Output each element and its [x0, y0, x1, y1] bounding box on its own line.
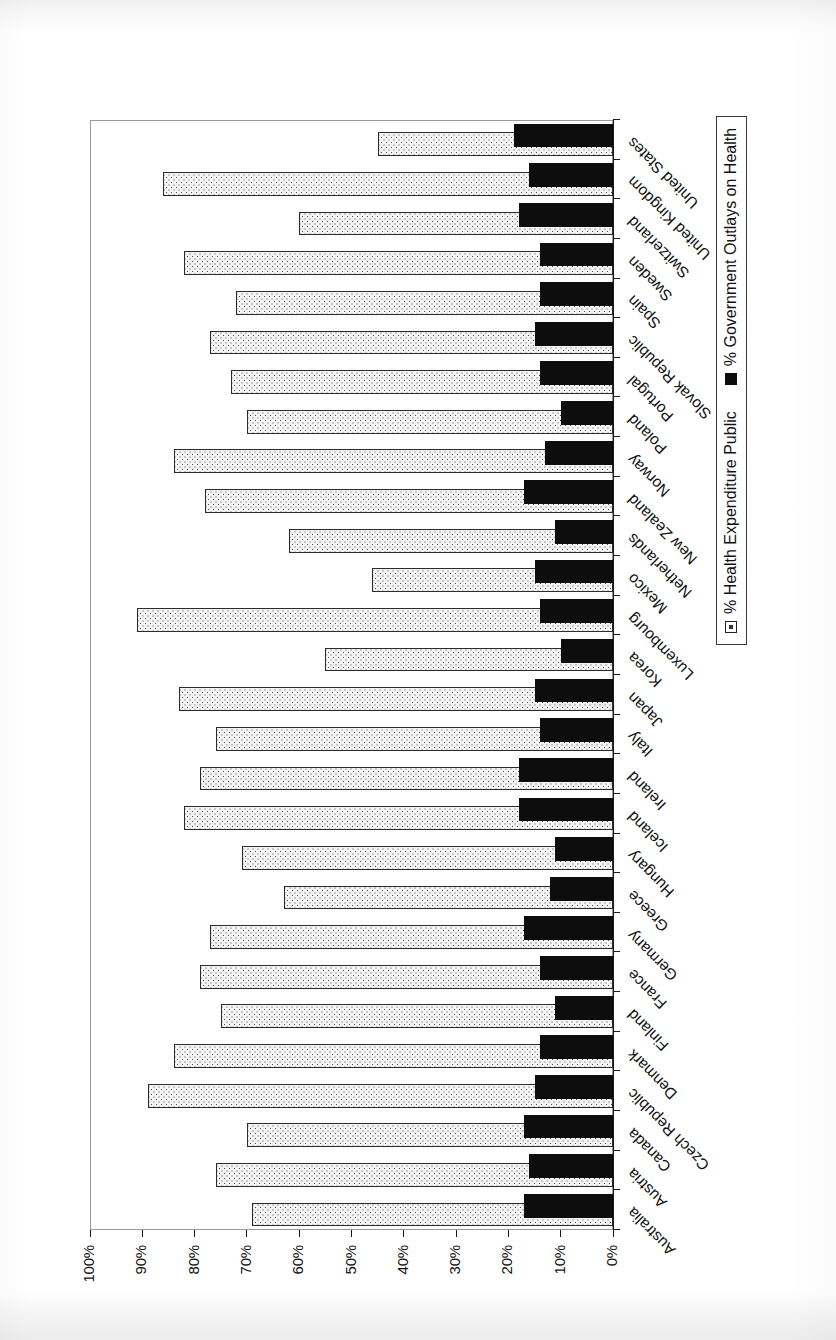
bar-government-outlays-on-health	[545, 441, 613, 465]
bar-government-outlays-on-health	[540, 718, 613, 742]
category-axis-tick	[613, 278, 620, 279]
legend-item-government-outlays-on-health: % Government Outlays on Health	[722, 128, 740, 385]
category-axis-tick	[613, 357, 620, 358]
bar-government-outlays-on-health	[540, 243, 613, 267]
bar-government-outlays-on-health	[524, 916, 613, 940]
value-axis-tick-label: 20%	[498, 1245, 515, 1305]
legend-item-health-expenditure-public: % Health Expenditure Public	[722, 411, 740, 633]
bar-group	[90, 239, 613, 279]
bar-group	[90, 1190, 613, 1230]
value-axis-tick-label: 50%	[342, 1245, 359, 1305]
value-axis-tick-label: 60%	[289, 1245, 306, 1305]
value-axis-tick-label: 70%	[237, 1245, 254, 1305]
category-axis-tick	[613, 436, 620, 437]
bar-group	[90, 516, 613, 556]
category-axis-tick	[613, 634, 620, 635]
value-axis-tick	[246, 1230, 247, 1237]
bar-group	[90, 953, 613, 993]
bar-government-outlays-on-health	[535, 560, 613, 584]
bar-group	[90, 754, 613, 794]
legend-label-government-outlays-on-health: % Government Outlays on Health	[722, 128, 740, 366]
bar-government-outlays-on-health	[540, 1035, 613, 1059]
category-axis-tick	[613, 872, 620, 873]
category-axis-tick	[613, 793, 620, 794]
bar-health-expenditure-public	[221, 1004, 613, 1028]
bar-government-outlays-on-health	[524, 1115, 613, 1139]
category-axis-tick	[613, 991, 620, 992]
category-axis-tick	[613, 119, 620, 120]
bar-chart: 0%10%20%30%40%50%60%70%80%90%100% Austra…	[68, 55, 768, 1285]
category-axis-tick	[613, 714, 620, 715]
bar-group	[90, 437, 613, 477]
bar-group	[90, 1111, 613, 1151]
bar-group	[90, 675, 613, 715]
bar-government-outlays-on-health	[535, 679, 613, 703]
bar-group	[90, 794, 613, 834]
value-axis-tick	[142, 1230, 143, 1237]
bar-government-outlays-on-health	[555, 996, 613, 1020]
bar-government-outlays-on-health	[555, 837, 613, 861]
bar-government-outlays-on-health	[524, 480, 613, 504]
bar-group	[90, 279, 613, 319]
category-axis-tick	[613, 159, 620, 160]
chart-legend: % Health Expenditure Public % Government…	[716, 116, 747, 645]
bar-government-outlays-on-health	[514, 124, 613, 148]
value-axis-tick-label: 0%	[603, 1245, 620, 1305]
category-axis-tick	[613, 515, 620, 516]
value-axis-tick-label: 80%	[185, 1245, 202, 1305]
bar-group	[90, 160, 613, 200]
bar-group	[90, 992, 613, 1032]
bar-government-outlays-on-health	[561, 639, 613, 663]
bar-government-outlays-on-health	[540, 599, 613, 623]
bar-group	[90, 358, 613, 398]
bar-government-outlays-on-health	[555, 520, 613, 544]
bar-government-outlays-on-health	[540, 956, 613, 980]
bar-group	[90, 834, 613, 874]
bar-government-outlays-on-health	[535, 1075, 613, 1099]
category-axis-tick	[613, 476, 620, 477]
value-axis-tick-label: 40%	[394, 1245, 411, 1305]
category-axis-tick	[613, 912, 620, 913]
bar-group	[90, 913, 613, 953]
value-axis-tick	[351, 1230, 352, 1237]
value-axis-tick	[403, 1230, 404, 1237]
bar-health-expenditure-public	[247, 410, 613, 434]
bar-group	[90, 635, 613, 675]
category-axis-tick	[613, 238, 620, 239]
value-axis-tick	[508, 1230, 509, 1237]
bar-group	[90, 715, 613, 755]
value-axis-tick	[456, 1230, 457, 1237]
bar-group	[90, 556, 613, 596]
value-axis-tick	[299, 1230, 300, 1237]
bar-group	[90, 318, 613, 358]
scanned-page: 0%10%20%30%40%50%60%70%80%90%100% Austra…	[0, 0, 836, 1340]
category-axis-tick	[613, 674, 620, 675]
bar-group	[90, 1151, 613, 1191]
category-axis-tick	[613, 1031, 620, 1032]
bar-government-outlays-on-health	[529, 163, 613, 187]
bar-group	[90, 873, 613, 913]
category-axis-tick	[613, 1229, 620, 1230]
rotated-figure-wrapper: 0%10%20%30%40%50%60%70%80%90%100% Austra…	[68, 55, 768, 1285]
bar-government-outlays-on-health	[519, 758, 613, 782]
bar-group	[90, 398, 613, 438]
bar-government-outlays-on-health	[561, 401, 613, 425]
bar-government-outlays-on-health	[535, 322, 613, 346]
value-axis-tick	[90, 1230, 91, 1237]
bar-government-outlays-on-health	[524, 1194, 613, 1218]
value-axis-tick-label: 10%	[551, 1245, 568, 1305]
bar-government-outlays-on-health	[540, 282, 613, 306]
category-axis-tick	[613, 555, 620, 556]
value-axis-tick-label: 30%	[446, 1245, 463, 1305]
bar-government-outlays-on-health	[519, 203, 613, 227]
value-axis-tick	[560, 1230, 561, 1237]
category-axis-tick	[613, 1110, 620, 1111]
bar-group	[90, 1032, 613, 1072]
legend-swatch-black-square-icon	[725, 373, 737, 385]
category-axis-tick	[613, 753, 620, 754]
category-axis-tick	[613, 397, 620, 398]
category-axis-tick	[613, 1070, 620, 1071]
category-axis-tick	[613, 198, 620, 199]
category-axis-tick	[613, 317, 620, 318]
bar-government-outlays-on-health	[519, 798, 613, 822]
